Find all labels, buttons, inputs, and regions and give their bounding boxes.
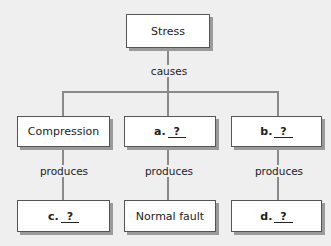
node-compression: Compression <box>17 116 110 147</box>
node-question-d: d.? <box>231 200 322 232</box>
link-label-produces-right: produces <box>251 165 307 177</box>
question-b: b.? <box>260 125 292 138</box>
link-label-produces-mid: produces <box>141 165 197 177</box>
connector-mid-down <box>167 91 169 116</box>
node-stress-label: Stress <box>151 25 185 38</box>
connector-horizontal <box>62 91 279 93</box>
connector-right-down <box>277 91 279 116</box>
node-compression-label: Compression <box>28 125 99 138</box>
node-question-a: a.? <box>124 116 216 147</box>
node-normal-fault: Normal fault <box>124 200 216 232</box>
node-question-b: b.? <box>231 116 322 147</box>
blank-d: ? <box>274 211 292 223</box>
question-d: d.? <box>260 210 292 223</box>
link-label-produces-left: produces <box>36 165 92 177</box>
link-label-causes: causes <box>145 65 193 77</box>
question-a: a.? <box>154 125 186 138</box>
connector-left-down <box>62 91 64 116</box>
node-stress: Stress <box>126 14 210 48</box>
blank-c: ? <box>61 211 79 223</box>
blank-a: ? <box>168 126 186 138</box>
question-c: c.? <box>48 210 79 223</box>
blank-b: ? <box>274 126 292 138</box>
node-normal-fault-label: Normal fault <box>136 210 204 223</box>
node-question-c: c.? <box>17 200 110 232</box>
